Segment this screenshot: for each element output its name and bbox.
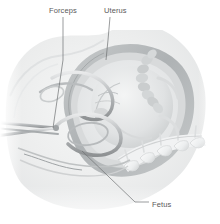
- spinous-process: [160, 134, 161, 145]
- anatomical-illustration: [0, 0, 220, 224]
- label-forceps: Forceps: [49, 6, 77, 15]
- label-fetus: Fetus: [152, 200, 171, 209]
- top-white-band: [0, 0, 220, 30]
- bottom-fade: [0, 186, 220, 224]
- left-fade: [0, 0, 22, 224]
- label-uterus: Uterus: [104, 6, 127, 15]
- spinous-process: [195, 126, 196, 137]
- forceps-delivery-figure: Forceps Uterus Fetus: [0, 0, 220, 224]
- right-fade: [198, 0, 220, 224]
- forceps-lock: [53, 125, 59, 131]
